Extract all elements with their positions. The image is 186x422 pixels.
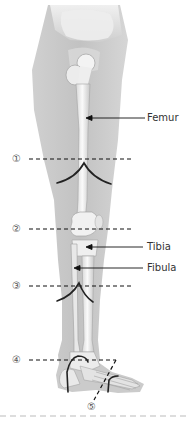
level-marker-4: ④ — [12, 355, 21, 365]
femur-label: Femur — [147, 113, 179, 123]
tibia-label: Tibia — [147, 242, 171, 252]
leg-anatomy-figure — [0, 0, 186, 422]
bottom-divider — [0, 415, 186, 417]
fibula-label: Fibula — [147, 263, 176, 273]
level-marker-3: ③ — [12, 281, 21, 291]
level-marker-1: ① — [12, 154, 21, 164]
level-marker-2: ② — [12, 224, 21, 234]
level-marker-5: ⑤ — [87, 402, 96, 412]
